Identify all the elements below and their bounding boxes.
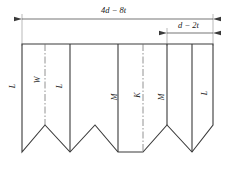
segment-label-5: K: [134, 92, 142, 97]
segment-label-6: M: [158, 94, 166, 101]
overall-dimension-label: 4d − 8t: [101, 6, 126, 15]
technical-drawing-canvas: 4d − 8t d − 2t L W L M K M L: [0, 0, 233, 169]
centerlines: [45, 44, 143, 152]
fold-lines: [70, 44, 192, 152]
segment-label-7: L: [201, 91, 209, 95]
segment-label-1: L: [9, 84, 17, 88]
segment-label-2: W: [34, 77, 42, 84]
right-panel-dimension-label: d − 2t: [178, 21, 199, 30]
segment-label-3: L: [56, 84, 64, 88]
segment-label-4: M: [111, 94, 119, 101]
